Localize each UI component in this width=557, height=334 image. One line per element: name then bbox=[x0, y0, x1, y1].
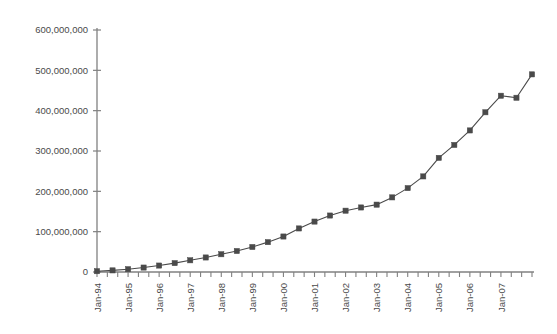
x-axis-tick-label: Jan-97 bbox=[185, 283, 196, 312]
data-point-marker bbox=[374, 202, 379, 207]
x-axis-tick-label: Jan-07 bbox=[496, 283, 507, 312]
x-axis-tick-label: Jan-04 bbox=[402, 283, 413, 312]
data-point-marker bbox=[514, 95, 519, 100]
data-point-marker bbox=[188, 258, 193, 263]
x-axis-tick-label: Jan-98 bbox=[216, 283, 227, 312]
x-axis-tick-label: Jan-01 bbox=[309, 283, 320, 312]
data-point-marker bbox=[172, 261, 177, 266]
y-axis-tick-label: 400,000,000 bbox=[35, 105, 88, 116]
data-point-marker bbox=[436, 155, 441, 160]
chart-container: 0100,000,000200,000,000300,000,000400,00… bbox=[0, 0, 557, 334]
data-point-marker bbox=[125, 267, 130, 272]
x-axis-tick-label: Jan-95 bbox=[123, 283, 134, 312]
data-point-marker bbox=[234, 248, 239, 253]
y-axis-tick-label: 100,000,000 bbox=[35, 226, 88, 237]
x-axis-tick-label: Jan-02 bbox=[340, 283, 351, 312]
data-point-marker bbox=[452, 142, 457, 147]
data-point-marker bbox=[141, 265, 146, 270]
series-line bbox=[97, 74, 532, 271]
data-point-marker bbox=[312, 219, 317, 224]
data-point-marker bbox=[529, 72, 534, 77]
data-point-marker bbox=[405, 186, 410, 191]
data-point-marker bbox=[498, 93, 503, 98]
x-axis-tick-label: Jan-96 bbox=[154, 283, 165, 312]
x-axis-tick-label: Jan-00 bbox=[278, 283, 289, 312]
y-axis-tick-label: 600,000,000 bbox=[35, 24, 88, 35]
data-point-marker bbox=[327, 213, 332, 218]
data-point-marker bbox=[157, 263, 162, 268]
data-point-marker bbox=[296, 226, 301, 231]
data-point-marker bbox=[343, 208, 348, 213]
data-point-marker bbox=[265, 240, 270, 245]
data-point-marker bbox=[483, 110, 488, 115]
data-point-marker bbox=[467, 128, 472, 133]
data-point-marker bbox=[110, 268, 115, 273]
x-axis-tick-label: Jan-99 bbox=[247, 283, 258, 312]
data-point-marker bbox=[219, 252, 224, 257]
x-axis-tick-label: Jan-06 bbox=[464, 283, 475, 312]
data-point-marker bbox=[359, 205, 364, 210]
data-point-marker bbox=[94, 269, 99, 274]
x-axis-tick-label: Jan-05 bbox=[433, 283, 444, 312]
data-point-marker bbox=[421, 174, 426, 179]
line-chart: 0100,000,000200,000,000300,000,000400,00… bbox=[0, 0, 557, 334]
y-axis-tick-label: 300,000,000 bbox=[35, 145, 88, 156]
data-point-marker bbox=[281, 234, 286, 239]
y-axis-tick-label: 0 bbox=[83, 266, 88, 277]
data-point-marker bbox=[250, 244, 255, 249]
data-point-marker bbox=[390, 195, 395, 200]
data-point-marker bbox=[203, 255, 208, 260]
y-axis-tick-label: 500,000,000 bbox=[35, 65, 88, 76]
x-axis-tick-label: Jan-03 bbox=[371, 283, 382, 312]
y-axis-tick-label: 200,000,000 bbox=[35, 186, 88, 197]
x-axis-tick-label: Jan-94 bbox=[92, 283, 103, 312]
